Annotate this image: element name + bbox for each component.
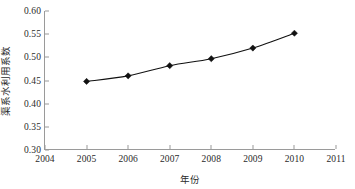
y-tick-label: 0.60 [24,6,41,16]
data-point [291,30,297,36]
y-tick-label: 0.35 [24,122,41,132]
x-tick-label: 2007 [160,154,179,164]
x-tick-label: 2008 [202,154,221,164]
x-tick-label: 2010 [285,154,304,164]
series-markers [83,30,297,84]
y-axis-title: 渠系水利用系数 [0,11,12,150]
chart-container: 0.300.350.400.450.500.550.60 20042005200… [0,0,355,189]
x-tick-label: 2005 [77,154,96,164]
x-tick-label: 2004 [35,154,54,164]
x-tick-label: 2006 [118,154,137,164]
x-tick-label: 2009 [243,154,262,164]
y-tick-label: 0.55 [24,29,41,39]
data-point [167,63,173,69]
x-axis-title: 年份 [44,172,335,186]
x-tick-label: 2011 [326,154,345,164]
series-line [87,33,295,81]
data-point [125,73,131,79]
y-tick-label: 0.40 [24,99,41,109]
data-point [250,45,256,51]
data-point [208,56,214,62]
data-series [45,11,336,150]
plot-area: 0.300.350.400.450.500.550.60 20042005200… [44,11,335,150]
data-point [83,78,89,84]
y-tick-label: 0.50 [24,52,41,62]
y-tick-label: 0.45 [24,76,41,86]
